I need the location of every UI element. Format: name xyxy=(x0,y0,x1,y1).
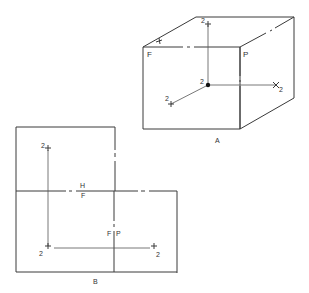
cube-bottom-right-edge xyxy=(240,98,294,129)
fold-label-f-lower: F xyxy=(81,192,85,199)
fold-label-p-right: P xyxy=(116,230,121,237)
point-2-marker xyxy=(206,83,210,87)
point-label-right: 2 xyxy=(279,86,283,93)
cube-front-face xyxy=(143,47,240,129)
caption-b: B xyxy=(93,278,98,285)
fold-label-f-left: F xyxy=(107,230,111,237)
point-label-front: 2 xyxy=(165,95,169,102)
b-point-label-side: 2 xyxy=(156,251,160,258)
cube-top-right-edge xyxy=(240,33,266,47)
cross-mark-b-side xyxy=(151,243,157,249)
figure-a: F P 2 2 2 2 A xyxy=(143,17,294,144)
plane-label-p: P xyxy=(243,50,248,59)
cross-mark-b-front xyxy=(45,243,51,249)
fold-label-h: H xyxy=(80,182,85,189)
figure-b: 2 2 2 H F F P B xyxy=(16,127,177,285)
projector-depth xyxy=(171,85,208,104)
cross-mark-top xyxy=(205,21,211,27)
cube-top-left-edge xyxy=(143,17,196,47)
plane-label-f: F xyxy=(147,50,152,59)
diagram-canvas: F P 2 2 2 2 A 2 2 xyxy=(0,0,309,293)
point-label-up: 2 xyxy=(201,17,205,24)
b-point-label-top: 2 xyxy=(41,142,45,149)
caption-a: A xyxy=(215,137,220,144)
b-point-label-front: 2 xyxy=(39,250,43,257)
cross-mark-b-top xyxy=(45,145,51,151)
point-label-origin: 2 xyxy=(200,78,204,85)
